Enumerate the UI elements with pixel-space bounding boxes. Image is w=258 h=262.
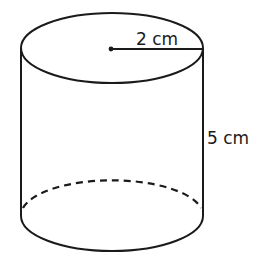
bottom-face-hidden-arc — [23, 180, 201, 208]
height-label: 5 cm — [207, 128, 249, 148]
bottom-face-front-arc — [21, 216, 203, 251]
radius-label: 2 cm — [136, 29, 178, 49]
cylinder-diagram: 2 cm 5 cm — [0, 0, 258, 262]
